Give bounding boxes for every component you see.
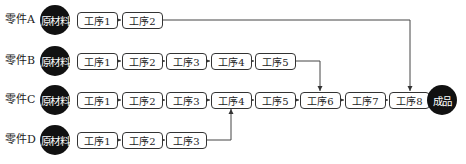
- row-d-step-3: 工序3: [166, 132, 207, 149]
- row-c-step-5: 工序5: [255, 92, 296, 109]
- row-b-step-3: 工序3: [166, 53, 207, 70]
- part-a-label: 零件A: [5, 13, 35, 27]
- row-c-step-3: 工序3: [166, 92, 207, 109]
- row-b-step-4: 工序4: [211, 53, 252, 70]
- row-b-step-1: 工序1: [77, 53, 118, 70]
- row-d-step-1: 工序1: [77, 132, 118, 149]
- row-b-step-5: 工序5: [255, 53, 296, 70]
- raw-material-b: 原材料: [40, 46, 70, 76]
- row-a-step-2: 工序2: [122, 12, 163, 29]
- row-c-step-4: 工序4: [211, 92, 252, 109]
- part-d-label: 零件D: [5, 133, 36, 147]
- row-a-step-1: 工序1: [77, 12, 118, 29]
- row-b-step-2: 工序2: [122, 53, 163, 70]
- part-c-label: 零件C: [5, 93, 35, 107]
- raw-material-d: 原材料: [40, 125, 70, 155]
- row-d-step-2: 工序2: [122, 132, 163, 149]
- row-c-step-2: 工序2: [122, 92, 163, 109]
- raw-material-c: 原材料: [40, 85, 70, 115]
- row-c-step-7: 工序7: [345, 92, 386, 109]
- raw-material-a: 原材料: [40, 5, 70, 35]
- finished-product: 成品: [427, 85, 457, 115]
- row-c-step-6: 工序6: [300, 92, 341, 109]
- row-c-step-1: 工序1: [77, 92, 118, 109]
- part-b-label: 零件B: [5, 54, 35, 68]
- row-c-step-8: 工序8: [389, 92, 430, 109]
